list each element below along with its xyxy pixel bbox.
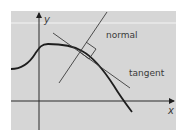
x-axis-label: x <box>167 105 174 116</box>
y-axis-label: y <box>43 14 51 25</box>
normal-label: normal <box>106 30 138 40</box>
tangent-normal-diagram: y x normal tangent <box>0 0 184 138</box>
tangent-label: tangent <box>129 68 165 78</box>
